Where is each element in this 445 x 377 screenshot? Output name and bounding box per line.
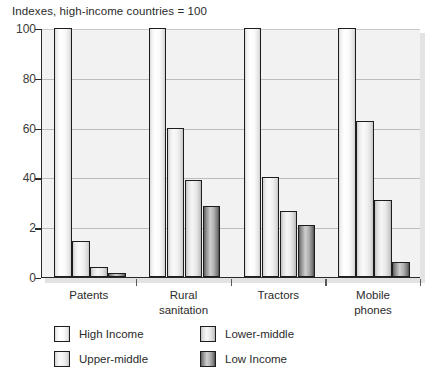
- legend-label: Lower-middle: [225, 328, 294, 341]
- legend-item[interactable]: Upper-middle: [54, 351, 148, 367]
- chart-title: Indexes, high-income countries = 100: [12, 4, 207, 18]
- bar-chart-figure: Indexes, high-income countries = 100 024…: [0, 0, 445, 377]
- legend-swatch-icon: [200, 326, 216, 342]
- plot-area-right-shadow: [420, 33, 425, 282]
- bar-mobile-phones-upper-middle: [356, 121, 374, 277]
- bar-patents-low-income: [108, 273, 126, 277]
- legend-label: Low Income: [225, 353, 287, 366]
- bar-rural-sanitation-low-income: [203, 206, 221, 277]
- legend-item[interactable]: Low Income: [200, 351, 287, 367]
- gridline: [42, 29, 420, 30]
- bar-mobile-phones-high-income: [338, 28, 356, 277]
- bar-patents-high-income: [54, 28, 72, 277]
- gridline: [42, 79, 420, 80]
- legend-label: Upper-middle: [79, 353, 148, 366]
- x-axis-category-label: Tractors: [231, 288, 325, 303]
- bar-patents-lower-middle: [90, 267, 108, 277]
- bar-tractors-lower-middle: [280, 211, 298, 277]
- y-axis-tick-label: 2: [2, 222, 36, 234]
- legend-swatch-icon: [54, 326, 70, 342]
- y-axis-tick-label: 0: [2, 272, 36, 284]
- bar-rural-sanitation-lower-middle: [185, 180, 203, 277]
- x-axis-tick-mark: [231, 279, 232, 286]
- x-axis-category-label: Mobile phones: [326, 288, 420, 317]
- bar-patents-upper-middle: [72, 241, 90, 277]
- legend-item[interactable]: Lower-middle: [200, 326, 294, 342]
- x-axis-category-label: Rural sanitation: [137, 288, 231, 317]
- x-axis-tick-mark: [325, 279, 326, 286]
- x-axis-category-label: Patents: [42, 288, 136, 303]
- chart-legend: High IncomeLower-middleUpper-middleLow I…: [54, 326, 354, 372]
- y-axis-tick-label: 40: [2, 172, 36, 184]
- bar-rural-sanitation-high-income: [149, 28, 167, 277]
- legend-swatch-icon: [54, 351, 70, 367]
- y-axis-tick-label: 60: [2, 123, 36, 135]
- bar-rural-sanitation-upper-middle: [167, 128, 185, 277]
- x-axis-tick-mark: [136, 279, 137, 286]
- legend-label: High Income: [79, 328, 144, 341]
- bar-mobile-phones-lower-middle: [374, 200, 392, 277]
- bar-mobile-phones-low-income: [392, 262, 410, 277]
- legend-item[interactable]: High Income: [54, 326, 144, 342]
- plot-area: [41, 29, 420, 278]
- y-axis-tick-label: 100: [2, 23, 36, 35]
- y-axis-tick-label: 80: [2, 73, 36, 85]
- x-axis-tick-mark: [420, 279, 421, 286]
- legend-swatch-icon: [200, 351, 216, 367]
- plot-area-bottom-shadow: [45, 278, 425, 283]
- bar-tractors-low-income: [298, 225, 316, 277]
- bar-tractors-high-income: [244, 28, 262, 277]
- bar-tractors-upper-middle: [262, 177, 280, 277]
